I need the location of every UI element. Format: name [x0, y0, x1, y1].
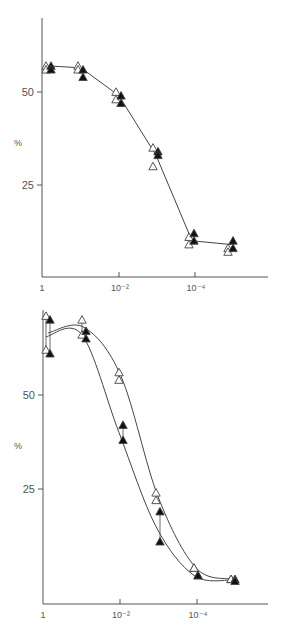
chart-bottom-plot: 50 25 % 1 10⁻² 10⁻⁴ [0, 310, 281, 637]
filled-series-curve [46, 328, 231, 581]
open-triangle-marker [78, 316, 86, 324]
x-tick-label-1: 1 [39, 283, 44, 293]
filled-triangle-marker [79, 73, 87, 81]
filled-triangle-marker [229, 237, 237, 245]
x-tick-label-1: 1 [40, 610, 45, 620]
x-tick-label-1e-2: 10⁻² [112, 610, 130, 620]
y-tick-label-50: 50 [23, 389, 35, 401]
open-triangle-marker [190, 564, 198, 572]
fit-line [49, 66, 231, 245]
data-points-bottom [42, 312, 239, 585]
open-triangle-marker [115, 368, 123, 376]
filled-triangle-marker [190, 229, 198, 237]
open-series-curve [48, 325, 233, 579]
x-tick-label-1e-4: 10⁻⁴ [189, 610, 208, 620]
open-triangle-marker [149, 162, 157, 170]
chart-bottom: 50 25 % 1 10⁻² 10⁻⁴ [0, 310, 281, 637]
y-axis-label: % [14, 138, 22, 148]
x-tick-label-1e-2: 10⁻² [111, 283, 129, 293]
y-tick-label-25: 25 [22, 179, 34, 191]
chart-top: 50 25 % 1 10⁻² 10⁻⁴ [0, 0, 281, 310]
x-tick-label-1e-4: 10⁻⁴ [187, 283, 206, 293]
data-points-top [42, 62, 237, 256]
y-axis-label: % [14, 441, 22, 451]
open-triangle-marker [149, 144, 157, 152]
filled-triangle-marker [119, 421, 127, 429]
y-tick-label-25: 25 [23, 483, 35, 495]
open-triangle-marker [152, 489, 160, 497]
filled-triangle-marker [119, 436, 127, 444]
chart-top-plot: 50 25 % 1 10⁻² 10⁻⁴ [0, 0, 281, 310]
y-tick-label-50: 50 [22, 86, 34, 98]
